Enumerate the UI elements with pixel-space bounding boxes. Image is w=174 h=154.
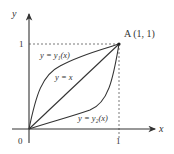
point-a-marker — [117, 42, 120, 45]
x-axis-label: x — [158, 123, 164, 134]
x-tick-label-one: 1 — [116, 136, 121, 146]
origin-label: 0 — [18, 136, 23, 146]
point-a-label: A (1, 1) — [124, 28, 155, 40]
curve-label-diagonal: y = x — [54, 72, 73, 82]
curve-label-lower: y = y₂(x) — [77, 113, 108, 123]
diagram-canvas: A (1, 1) y x 0 1 1 y = y₁(x) y = x y = y… — [0, 0, 174, 154]
y-tick-label-one: 1 — [19, 39, 24, 49]
curve-label-upper: y = y₁(x) — [39, 50, 70, 60]
y-axis-label: y — [11, 8, 17, 19]
